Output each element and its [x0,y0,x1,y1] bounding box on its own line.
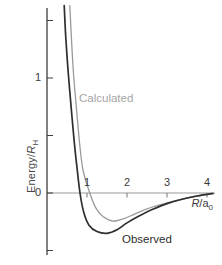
plot-area [0,0,222,265]
x-axis-label: R/a0 [191,197,213,212]
observed-curve-label: Observed [122,233,172,245]
y-tick-label-1: 1 [25,71,41,84]
x-tick-label-1: 1 [77,176,97,189]
calculated-curve-label: Calculated [79,92,133,104]
y-axis-label-prefix: Energy/ [25,154,37,193]
potential-energy-figure: 1 0 1 2 3 4 Energy/RH R/a0 Calculated Ob… [0,0,222,265]
x-tick-label-4: 4 [197,176,217,189]
x-tick-label-3: 3 [157,176,177,189]
y-axis-label-subscript: H [31,140,40,146]
x-tick-label-2: 2 [117,176,137,189]
y-axis-label-symbol: R [25,146,37,154]
x-axis-label-divider: /a [199,197,208,209]
x-axis-label-subscript: 0 [209,203,213,212]
y-axis-label: Energy/RH [25,140,40,193]
